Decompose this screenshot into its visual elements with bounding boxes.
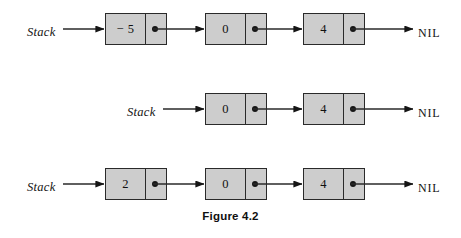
list-node-row-3-0: 2	[105, 168, 167, 200]
node-value-row-2-1: 4	[304, 94, 344, 124]
node-pointer-row-2-1	[344, 94, 364, 124]
pointer-dot-icon	[350, 26, 356, 32]
node-value-row-1-0: − 5	[106, 14, 146, 44]
linked-list-row-2: Stack 0 4 NIL	[0, 93, 461, 139]
pointer-dot-icon	[252, 181, 258, 187]
list-node-row-1-1: 0	[205, 13, 267, 45]
node-value-row-3-0: 2	[106, 169, 146, 199]
stack-pointer-label-row-2: Stack	[127, 105, 156, 120]
node-pointer-row-3-2	[344, 169, 364, 199]
pointer-dot-icon	[152, 26, 158, 32]
list-node-row-3-2: 4	[303, 168, 365, 200]
nil-label-row-1: NIL	[418, 26, 440, 41]
list-node-row-2-1: 4	[303, 93, 365, 125]
nil-label-row-2: NIL	[418, 106, 440, 121]
node-pointer-row-3-1	[246, 169, 266, 199]
pointer-dot-icon	[350, 181, 356, 187]
node-value-row-1-1: 0	[206, 14, 246, 44]
node-value-row-3-2: 4	[304, 169, 344, 199]
pointer-dot-icon	[252, 26, 258, 32]
node-pointer-row-2-0	[246, 94, 266, 124]
stack-pointer-label-row-1: Stack	[27, 25, 56, 40]
linked-list-row-1: Stack − 5 0 4 NIL	[0, 13, 461, 59]
linked-list-figure: Stack − 5 0 4 NIL Stack 0	[0, 0, 461, 238]
pointer-dot-icon	[152, 181, 158, 187]
node-pointer-row-3-0	[146, 169, 166, 199]
list-node-row-1-2: 4	[303, 13, 365, 45]
node-value-row-1-2: 4	[304, 14, 344, 44]
list-node-row-2-0: 0	[205, 93, 267, 125]
pointer-dot-icon	[350, 106, 356, 112]
figure-caption: Figure 4.2	[0, 210, 461, 222]
stack-pointer-label-row-3: Stack	[27, 180, 56, 195]
node-pointer-row-1-1	[246, 14, 266, 44]
node-pointer-row-1-2	[344, 14, 364, 44]
list-node-row-3-1: 0	[205, 168, 267, 200]
node-pointer-row-1-0	[146, 14, 166, 44]
nil-label-row-3: NIL	[418, 181, 440, 196]
pointer-dot-icon	[252, 106, 258, 112]
list-node-row-1-0: − 5	[105, 13, 167, 45]
node-value-row-3-1: 0	[206, 169, 246, 199]
linked-list-row-3: Stack 2 0 4 NIL	[0, 168, 461, 214]
node-value-row-2-0: 0	[206, 94, 246, 124]
